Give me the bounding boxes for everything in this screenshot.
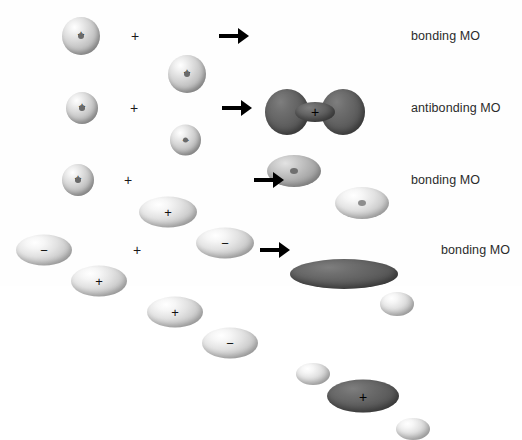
p-orbital-lobe-b-positive: + — [147, 297, 203, 328]
p-orbital-lobe-a-negative: − — [16, 235, 72, 266]
s-orbital-left: + — [62, 164, 94, 196]
diagram-row-bonding-s-plus-s: + + + + bonding MO — [0, 0, 522, 72]
operator-plus: + — [133, 242, 141, 258]
orbital-sign: + — [359, 389, 367, 403]
p-orbital-lobe-a-positive: + — [71, 266, 127, 297]
right-arrow-icon — [260, 242, 290, 258]
operator-plus: + — [124, 172, 132, 188]
bonding-mo-large-ellipse: + — [327, 380, 399, 413]
orbital-sign: + — [78, 101, 85, 113]
s-orbital-left: + — [62, 17, 100, 55]
diagram-row-bonding-s-plus-p: + + + − bonding MO — [0, 144, 522, 216]
s-orbital-left: + — [66, 92, 98, 124]
bonding-mo-small-lobe-left — [296, 363, 330, 385]
p-orbital-lobe-b-negative: − — [202, 328, 258, 359]
orbital-sign: + — [171, 306, 179, 319]
right-arrow-icon — [254, 172, 284, 188]
operator-plus: + — [130, 100, 138, 116]
orbital-sign: + — [95, 275, 103, 288]
row-label-bonding-mo: bonding MO — [441, 243, 510, 257]
right-arrow-icon — [219, 28, 249, 44]
orbital-sign: + — [77, 29, 84, 41]
operator-plus: + — [131, 28, 139, 44]
row-label-bonding-mo: bonding MO — [411, 173, 480, 187]
right-arrow-icon — [222, 100, 252, 116]
diagram-row-antibonding-s-minus-s: + + − antibonding MO — [0, 72, 522, 144]
row-label-bonding-mo: bonding MO — [411, 29, 480, 43]
orbital-sign: − — [226, 337, 234, 350]
bonding-mo-small-lobe — [380, 292, 414, 316]
bonding-mo-small-lobe-right — [396, 418, 430, 440]
row-label-antibonding-mo: antibonding MO — [411, 101, 501, 115]
diagram-row-bonding-p-plus-p: − + + + − + bonding MO — [0, 214, 522, 286]
orbital-sign: + — [74, 173, 81, 185]
orbital-sign: − — [40, 244, 48, 257]
